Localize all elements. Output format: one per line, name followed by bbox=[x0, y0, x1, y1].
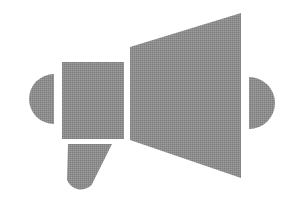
icon-canvas bbox=[0, 0, 295, 217]
megaphone-body bbox=[62, 62, 124, 139]
megaphone-icon bbox=[0, 0, 295, 217]
